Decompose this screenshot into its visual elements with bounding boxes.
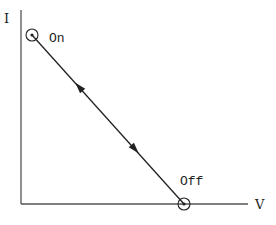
load-line bbox=[32, 35, 184, 204]
on-point-label: On bbox=[49, 31, 65, 46]
iv-diagram: I V On Off bbox=[0, 0, 276, 225]
on-point-marker bbox=[26, 29, 38, 41]
y-axis-label: I bbox=[4, 11, 9, 26]
off-point-label: Off bbox=[180, 174, 203, 189]
x-axis-label: V bbox=[254, 197, 265, 212]
